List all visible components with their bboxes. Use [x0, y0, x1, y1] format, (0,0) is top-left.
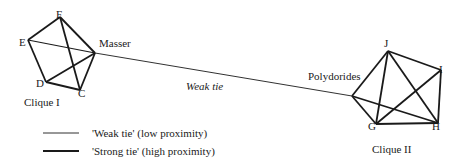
network-diagram [0, 0, 463, 164]
node-e: E [19, 36, 26, 48]
strong-ties-clique-2 [352, 51, 441, 124]
node-f: F [56, 8, 62, 20]
node-h: H [432, 120, 440, 132]
node-g: G [368, 120, 376, 132]
weak-tie-label: Weak tie [186, 80, 223, 92]
clique-2-label: Clique II [372, 143, 411, 155]
node-i: I [439, 63, 443, 75]
node-masser: Masser [99, 37, 131, 49]
node-j: J [384, 37, 388, 49]
node-d: D [36, 77, 44, 89]
node-c: C [78, 87, 85, 99]
node-polydorides: Polydorides [308, 70, 361, 82]
clique-1-label: Clique I [24, 96, 60, 108]
legend-weak-text: 'Weak tie' (low proximity) [92, 127, 207, 139]
legend-strong-text: 'Strong tie' (high proximity) [92, 145, 215, 157]
